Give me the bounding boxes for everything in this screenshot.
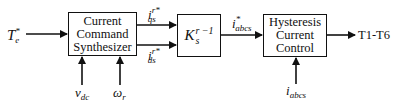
- synth-line3: Synthesizer: [73, 41, 131, 54]
- ids-ref-label: ir*ds: [148, 46, 156, 65]
- torque-ref-label: Te*: [7, 26, 20, 45]
- hyst-line3: Control: [269, 42, 321, 55]
- current-command-synthesizer-block: Current Command Synthesizer: [68, 12, 137, 56]
- omega-r-label: ωr: [113, 85, 126, 102]
- synth-line2: Command: [73, 28, 131, 41]
- output-label: T1-T6: [358, 28, 390, 43]
- synth-line1: Current: [73, 15, 131, 28]
- transform-base: K: [184, 29, 194, 42]
- iabcs-ref-label: i*abcs: [232, 14, 252, 33]
- transform-block: Kr −1s: [177, 14, 221, 57]
- transform-sub: s: [195, 36, 213, 46]
- hysteresis-current-control-block: Hysteresis Current Control: [263, 14, 327, 57]
- iabcs-label: iabcs: [286, 83, 306, 100]
- vdc-label: vdc: [75, 85, 89, 102]
- iqs-ref-label: ir*qs: [148, 5, 156, 24]
- transform-sup: r −1: [195, 26, 213, 36]
